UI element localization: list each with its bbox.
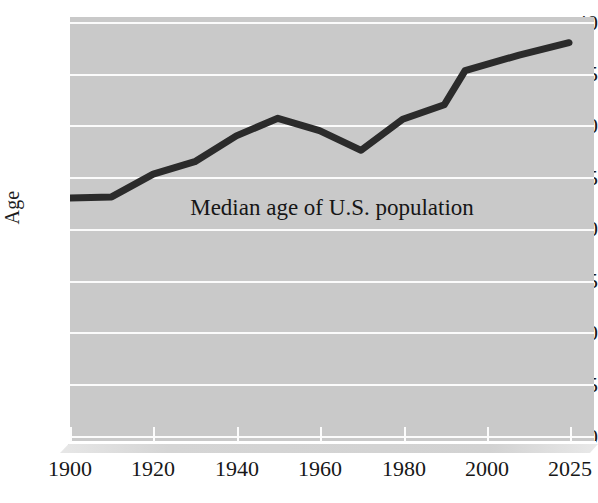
chart-title: Median age of U.S. population [70,195,594,221]
data-line-path [70,43,569,198]
median-age-line-chart: Age 40 35 30 25 20 15 10 5 0 Median age … [0,0,598,503]
x-tick-1940 [237,427,239,442]
x-tick-2000 [487,427,489,442]
x-tick-label-2025: 2025 [525,458,598,480]
x-tick-1900 [70,427,72,442]
x-tick-label-1920: 1920 [108,458,198,480]
x-tick-label-1960: 1960 [275,458,365,480]
x-tick-1980 [404,427,406,442]
x-tick-label-1900: 1900 [25,458,115,480]
x-axis-line [68,441,596,444]
y-axis-title: Age [1,178,24,238]
x-tick-2025 [570,427,572,442]
x-tick-label-1980: 1980 [359,458,449,480]
x-tick-1920 [153,427,155,442]
x-tick-1960 [320,427,322,442]
x-tick-label-1940: 1940 [192,458,282,480]
plot-area: Median age of U.S. population [70,17,594,441]
data-series-median-age [70,17,594,441]
x-axis-baseline [60,444,598,453]
x-tick-label-2000: 2000 [442,458,532,480]
